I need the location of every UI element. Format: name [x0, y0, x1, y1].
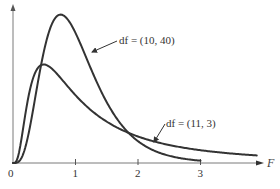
- leader-df-11-3: [154, 124, 165, 142]
- x-tick-label-3: 3: [198, 167, 204, 179]
- x-tick-label-0: 0: [8, 167, 14, 179]
- annotation-df-11-3: df = (11, 3): [166, 117, 216, 130]
- x-tick-label-2: 2: [135, 167, 141, 179]
- f-distribution-chart: F 0123 df = (10, 40) df = (11, 3): [0, 0, 280, 189]
- x-tick-label-1: 1: [73, 167, 79, 179]
- leader-df-10-40: [92, 41, 117, 52]
- x-axis-label: F: [266, 156, 275, 170]
- x-axis-arrow-icon: [256, 161, 264, 166]
- series-line-df-11-3: [13, 64, 257, 163]
- y-axis-arrow-icon: [11, 4, 16, 11]
- annotation-df-10-40: df = (10, 40): [119, 34, 175, 47]
